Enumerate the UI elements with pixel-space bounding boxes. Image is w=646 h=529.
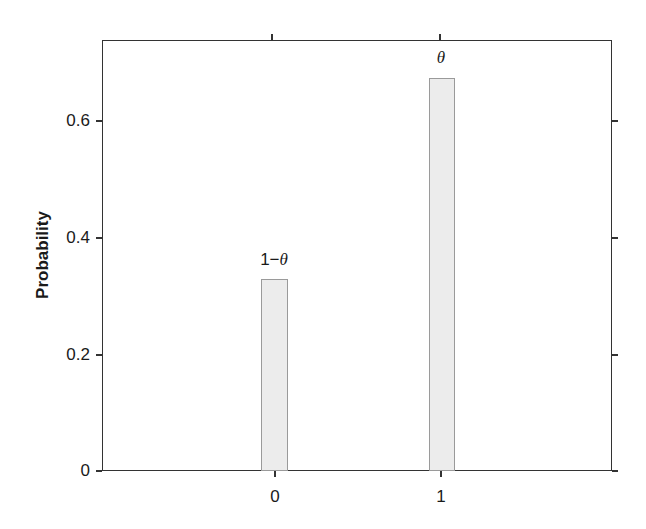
y-tick-0 <box>96 470 102 472</box>
y-tick-0.4 <box>96 237 102 239</box>
bar-1-annotation: θ <box>411 48 471 68</box>
annotation-prefix: 1− <box>260 250 279 269</box>
x-tick-label: 1 <box>426 487 456 507</box>
y-tick-right-0.6 <box>612 120 618 122</box>
theta-symbol: θ <box>280 250 288 269</box>
y-tick-label: 0 <box>40 461 90 481</box>
y-tick-right-0.2 <box>612 354 618 356</box>
x-tick-0 <box>274 471 276 477</box>
y-tick-right-0.4 <box>612 237 618 239</box>
y-tick-0.2 <box>96 354 102 356</box>
y-tick-label: 0.4 <box>40 228 90 248</box>
y-tick-right-0 <box>612 470 618 472</box>
bar-0-annotation: 1−θ <box>244 250 304 270</box>
plot-area <box>102 40 612 471</box>
bar-0 <box>261 279 288 471</box>
x-tick-top-0 <box>271 34 273 40</box>
bar-1 <box>429 78 455 471</box>
y-tick-label: 0.6 <box>40 111 90 131</box>
y-tick-label: 0.2 <box>40 345 90 365</box>
x-tick-top-1 <box>439 34 441 40</box>
x-tick-1 <box>440 471 442 477</box>
y-axis-title: Probability <box>33 211 53 299</box>
y-tick-0.6 <box>96 120 102 122</box>
x-tick-label: 0 <box>260 487 290 507</box>
